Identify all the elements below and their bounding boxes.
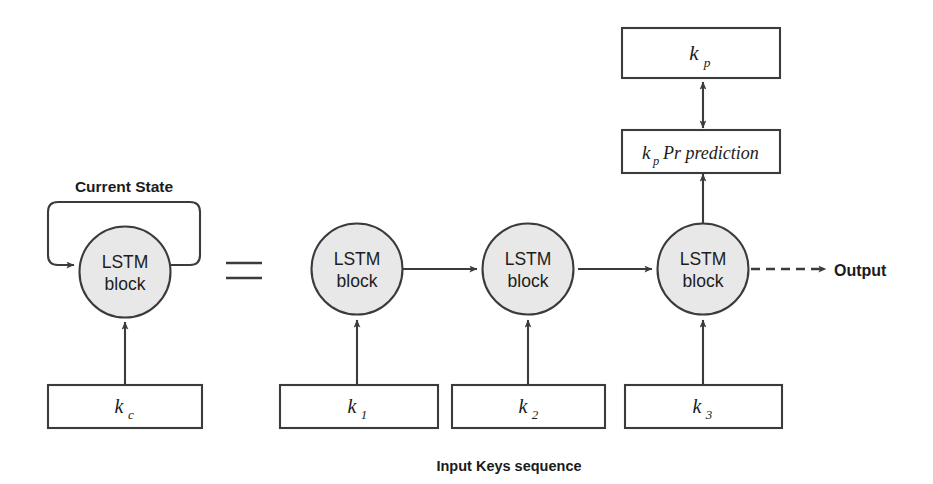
input-box-k3 <box>625 385 782 428</box>
input-box-k1-label: k <box>348 395 358 417</box>
prediction-box-subscript: p <box>652 154 659 168</box>
input-box-k3-label: k <box>693 395 703 417</box>
lstm-block-3-label-1: LSTM <box>680 249 727 269</box>
lstm-block-2-label-2: block <box>508 271 549 291</box>
lstm-block-2-label-1: LSTM <box>505 249 552 269</box>
input-box-k3-subscript: 3 <box>705 407 713 422</box>
input-box-k1 <box>280 385 438 428</box>
figure-root: LSTM block k c Current State = Output LS… <box>0 0 933 484</box>
input-box-kc <box>48 385 202 428</box>
prediction-box-suffix: Pr prediction <box>662 143 759 163</box>
prediction-box-label: k <box>642 142 651 163</box>
input-box-k1-subscript: 1 <box>361 407 368 422</box>
lstm-block-1-label-1: LSTM <box>334 249 381 269</box>
input-box-k2 <box>452 385 605 428</box>
input-box-kc-label: k <box>115 395 125 417</box>
output-label: Output <box>834 262 887 279</box>
diagram-canvas: LSTM block k c Current State = Output LS… <box>0 0 933 484</box>
output-box-kp-label: k <box>689 41 699 65</box>
lstm-block-1 <box>312 224 403 315</box>
lstm-block-1-label-2: block <box>337 271 378 291</box>
output-box-kp-subscript: p <box>703 55 711 70</box>
input-box-k2-subscript: 2 <box>532 407 539 422</box>
lstm-block-3-label-2: block <box>683 271 724 291</box>
lstm-block-current-label-1: LSTM <box>102 252 149 272</box>
output-box-kp <box>622 28 780 78</box>
lstm-block-2 <box>483 224 574 315</box>
input-box-k2-label: k <box>519 395 529 417</box>
lstm-block-current-label-2: block <box>105 274 146 294</box>
input-box-kc-subscript: c <box>128 407 134 422</box>
input-keys-sequence-caption: Input Keys sequence <box>436 458 581 474</box>
lstm-block-3 <box>658 224 749 315</box>
lstm-block-current <box>80 227 171 318</box>
current-state-label: Current State <box>75 178 174 195</box>
